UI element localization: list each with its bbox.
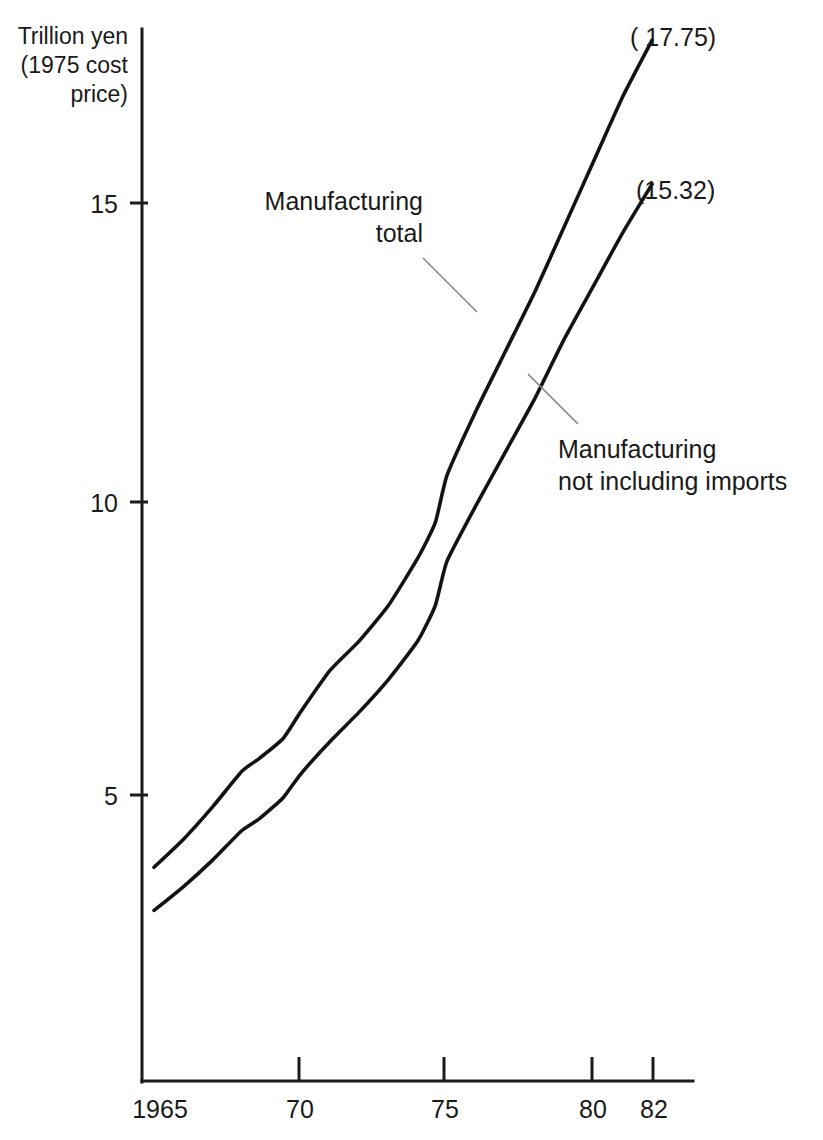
x-axis-ticks: 1965 70 75 80 82 [132, 1057, 668, 1123]
y-tick-label-10: 10 [90, 489, 118, 517]
y-tick-label-15: 15 [90, 190, 118, 218]
annotation-manufacturing-total-leader-line [423, 258, 477, 312]
series-line-manufacturing-not-including-imports [154, 184, 652, 910]
annotation-manufacturing-total: Manufacturing total [265, 187, 477, 312]
chart-figure: Trillion yen (1975 cost price) 5 10 15 1… [0, 0, 823, 1140]
end-value-label-manufacturing-not-including-imports: (15.32) [636, 176, 715, 204]
y-axis-title: Trillion yen (1975 cost price) [18, 23, 129, 107]
annotation-manufacturing-not-including-imports-line-2: not including imports [558, 467, 787, 495]
end-value-label-manufacturing-total: ( 17.75) [630, 23, 716, 51]
x-tick-label-80: 80 [579, 1095, 607, 1123]
y-axis-ticks: 5 10 15 [90, 190, 148, 810]
annotation-manufacturing-total-line-1: Manufacturing [265, 187, 423, 215]
x-tick-label-70: 70 [286, 1095, 314, 1123]
y-axis-title-line-3: price) [70, 81, 128, 107]
x-tick-label-82: 82 [640, 1095, 668, 1123]
annotation-manufacturing-total-line-2: total [376, 219, 423, 247]
x-tick-label-1965: 1965 [132, 1095, 188, 1123]
line-chart: Trillion yen (1975 cost price) 5 10 15 1… [0, 0, 823, 1140]
y-axis-title-line-1: Trillion yen [18, 23, 128, 49]
annotation-manufacturing-not-including-imports: Manufacturing not including imports [528, 374, 787, 495]
y-axis-title-line-2: (1975 cost [21, 52, 129, 78]
annotation-manufacturing-not-including-imports-line-1: Manufacturing [558, 435, 716, 463]
x-tick-label-75: 75 [431, 1095, 459, 1123]
y-tick-label-5: 5 [104, 782, 118, 810]
